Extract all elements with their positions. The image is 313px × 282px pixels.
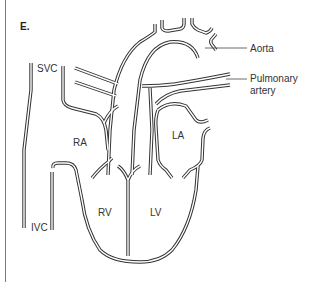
- leader-lines: [0, 0, 313, 282]
